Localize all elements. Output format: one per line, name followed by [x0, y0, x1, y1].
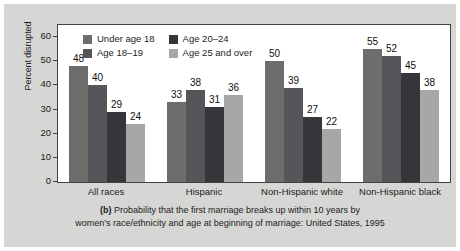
bar-value-label: 24: [130, 112, 141, 124]
bar-value-label: 50: [269, 49, 280, 61]
bar: 55: [363, 49, 382, 182]
y-axis-tick-mark: [53, 157, 57, 158]
y-axis-tick-mark: [53, 36, 57, 37]
bar: 29: [107, 112, 126, 182]
y-axis-tick-label: 30: [31, 104, 51, 114]
legend-label: Age 18–19: [97, 48, 143, 58]
legend-swatch-icon: [169, 35, 178, 44]
legend-swatch-icon: [83, 35, 92, 44]
bar: 38: [186, 90, 205, 182]
figure-caption: (b) Probability that the first marriage …: [5, 204, 455, 230]
bar-value-label: 52: [386, 44, 397, 56]
bar-value-label: 36: [228, 83, 239, 95]
bar: 38: [420, 90, 439, 182]
bar-value-label: 38: [190, 78, 201, 90]
y-axis-tick-label: 20: [31, 128, 51, 138]
y-axis-tick-label: 0: [31, 176, 51, 186]
caption-letter: (b): [100, 205, 112, 215]
y-axis-tick-mark: [53, 181, 57, 182]
bar: 31: [205, 107, 224, 182]
caption-text-1: Probability that the first marriage brea…: [114, 205, 360, 215]
bar: 40: [88, 85, 107, 182]
bar-value-label: 39: [288, 76, 299, 88]
legend-label: Under age 18: [97, 34, 155, 44]
legend-entry: Age 20–24: [169, 34, 253, 44]
chart-legend: Under age 18Age 20–24Age 18–19Age 25 and…: [83, 33, 252, 59]
y-axis-tick-mark: [53, 84, 57, 85]
bar: 33: [167, 102, 186, 182]
bar-value-label: 22: [326, 117, 337, 129]
legend-swatch-icon: [169, 49, 178, 58]
caption-line-2: women’s race/ethnicity and age at beginn…: [5, 217, 455, 230]
figure-container: 48402924333831365039272255524538 Percent…: [0, 0, 460, 251]
bar-value-label: 31: [209, 95, 220, 107]
y-axis-tick-label: 40: [31, 79, 51, 89]
bar-value-label: 45: [405, 61, 416, 73]
bar: 52: [382, 56, 401, 182]
y-axis-tick-mark: [53, 109, 57, 110]
legend-label: Age 20–24: [183, 34, 229, 44]
bar-value-label: 40: [92, 73, 103, 85]
bar-value-label: 27: [307, 105, 318, 117]
legend-entry: Age 18–19: [83, 48, 155, 58]
figure-panel: 48402924333831365039272255524538 Percent…: [5, 4, 455, 247]
bar: 36: [224, 95, 243, 182]
y-axis-tick-label: 50: [31, 55, 51, 65]
bar: 39: [284, 88, 303, 182]
y-axis-tick-label: 10: [31, 152, 51, 162]
bar: 22: [322, 129, 341, 182]
legend-swatch-icon: [83, 49, 92, 58]
x-axis-category-label: All races: [88, 186, 124, 197]
legend-entry: Age 25 and over: [169, 48, 253, 58]
x-axis-category-label: Non-Hispanic black: [359, 186, 441, 197]
bar-value-label: 29: [111, 100, 122, 112]
bar: 50: [265, 61, 284, 182]
legend-label: Age 25 and over: [183, 48, 253, 58]
caption-line-1: (b) Probability that the first marriage …: [5, 204, 455, 217]
y-axis-tick-label: 60: [31, 31, 51, 41]
y-axis-tick-mark: [53, 133, 57, 134]
bar-value-label: 55: [367, 37, 378, 49]
y-axis-tick-mark: [53, 60, 57, 61]
bar-value-label: 33: [171, 90, 182, 102]
x-axis-category-label: Non-Hispanic white: [261, 186, 343, 197]
legend-entry: Under age 18: [83, 34, 155, 44]
bar: 24: [126, 124, 145, 182]
bar: 27: [303, 117, 322, 182]
x-axis-category-label: Hispanic: [186, 186, 222, 197]
bar: 45: [401, 73, 420, 182]
bar-value-label: 38: [424, 78, 435, 90]
bar: 48: [69, 66, 88, 182]
